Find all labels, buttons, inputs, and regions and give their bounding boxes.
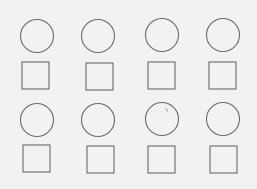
- circle-shape: [207, 103, 240, 136]
- circle-shape: [207, 19, 240, 52]
- shape-row-1: [21, 19, 240, 91]
- square-shape: [23, 145, 50, 172]
- square-shape: [210, 146, 237, 173]
- circle-shape: [146, 103, 179, 136]
- pencil-mark: [166, 108, 168, 111]
- worksheet-canvas: [0, 0, 257, 189]
- square-shape: [87, 146, 114, 173]
- circle-shape: [82, 20, 115, 53]
- square-shape: [209, 62, 236, 89]
- square-shape: [22, 62, 49, 89]
- shapes-grid: [0, 0, 257, 189]
- square-shape: [148, 62, 175, 89]
- circle-shape: [21, 20, 54, 53]
- circle-shape: [146, 19, 179, 52]
- square-shape: [86, 63, 113, 90]
- square-shape: [148, 146, 175, 173]
- circle-shape: [21, 104, 54, 137]
- shape-row-2: [21, 103, 240, 174]
- circle-shape: [82, 104, 115, 137]
